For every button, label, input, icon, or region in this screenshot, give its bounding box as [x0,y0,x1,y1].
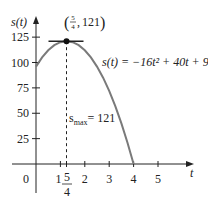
origin-label: 0 [23,172,29,186]
svg-text:(: ( [64,14,69,32]
y-tick-label: 25 [17,132,29,146]
x-ticks: 12345 [55,161,161,186]
max-point-label: ( 5 4 , 121 ) [64,14,105,32]
x-tick-label: 4 [131,172,137,186]
svg-text:,: , [77,15,80,29]
x-tick-label: 2 [82,172,88,186]
smax-label: smax= 121 [69,111,115,127]
svg-text:4: 4 [64,185,70,199]
svg-text:4: 4 [71,23,75,31]
svg-text:5: 5 [71,14,75,22]
y-tick-label: 100 [11,56,29,70]
max-point [64,38,70,44]
x-axis-label: t [190,166,194,180]
svg-text:): ) [100,14,105,32]
y-axis-arrow-icon [33,16,39,24]
y-axis-label: s(t) [11,15,27,29]
svg-text:5: 5 [64,170,70,184]
y-tick-label: 75 [17,81,29,95]
x-tick-label: 5 [155,172,161,186]
y-tick-label: 50 [17,106,29,120]
equation-label: s(t) = −16t² + 40t + 96 [102,55,208,69]
svg-text:121: 121 [82,15,100,29]
x-tick-label: 3 [106,172,112,186]
chart: 12345 255075100125 s(t) t 0 ( 5 4 , 121 … [0,0,208,202]
y-tick-label: 125 [11,30,29,44]
special-tick-label: 5 4 [62,170,72,199]
x-tick-label: 1 [55,172,61,186]
